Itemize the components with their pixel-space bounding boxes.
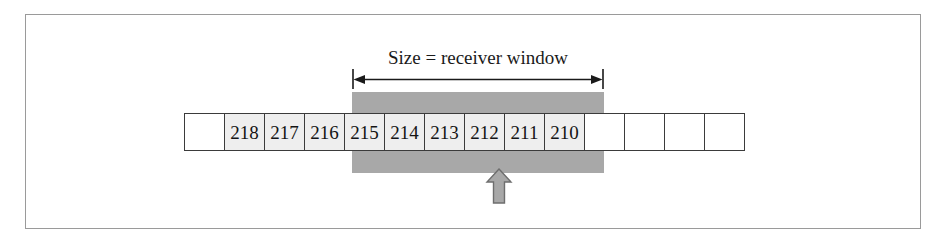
double-headed-arrow-icon <box>352 69 604 89</box>
sequence-number-cell-row: 218 217 216 215 214 213 212 211 210 <box>184 113 744 151</box>
sequence-cell: 211 <box>504 113 545 151</box>
sequence-cell <box>584 113 625 151</box>
sequence-cell: 213 <box>424 113 465 151</box>
up-arrow-pointer-icon <box>485 168 513 204</box>
sequence-cell: 218 <box>224 113 265 151</box>
sequence-cell: 210 <box>544 113 585 151</box>
sequence-cell <box>664 113 705 151</box>
sequence-cell <box>624 113 665 151</box>
sequence-cell: 217 <box>264 113 305 151</box>
window-size-label: Size = receiver window <box>352 47 604 69</box>
sequence-cell <box>704 113 745 151</box>
window-size-dimension: Size = receiver window <box>352 47 604 89</box>
sliding-window-figure: Size = receiver window 218 217 216 215 2… <box>0 0 946 240</box>
sequence-cell <box>184 113 225 151</box>
sequence-cell: 214 <box>384 113 425 151</box>
sequence-cell: 215 <box>344 113 385 151</box>
sequence-cell: 212 <box>464 113 505 151</box>
sequence-cell: 216 <box>304 113 345 151</box>
